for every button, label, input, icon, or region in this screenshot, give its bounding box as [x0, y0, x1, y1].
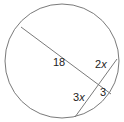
label-3x: 3x [73, 91, 85, 103]
label-3: 3 [100, 86, 106, 98]
chord-diagram-svg: 18 2x 3x 3 [0, 0, 124, 122]
label-2x: 2x [95, 58, 107, 70]
chord-diagram: 18 2x 3x 3 [0, 0, 124, 122]
label-18: 18 [53, 56, 65, 68]
